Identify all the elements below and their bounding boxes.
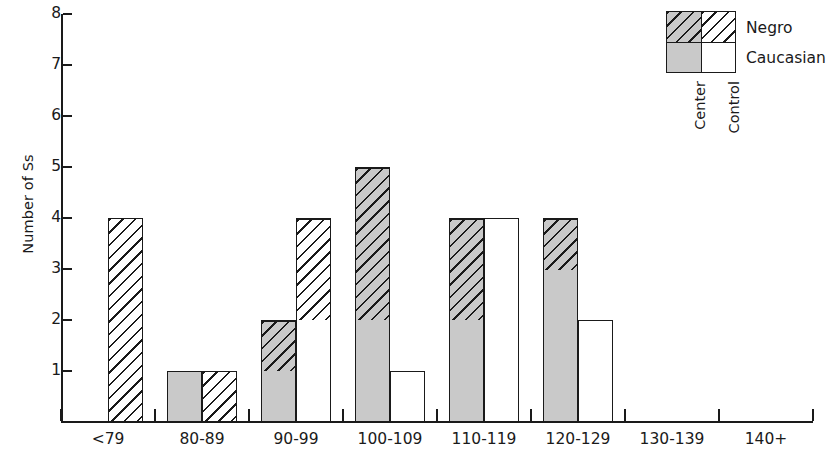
y-tick-label-2: 2 — [35, 310, 61, 328]
bar-segment-control-caucasian-100-109 — [391, 372, 424, 421]
bar-center-100-109 — [355, 167, 390, 422]
y-tick-label-4: 4 — [35, 208, 61, 226]
bar-segment-center-caucasian-80-89 — [168, 372, 201, 421]
x-tick-label-4: 110-119 — [452, 430, 517, 448]
y-tick-label-8: 8 — [35, 4, 61, 22]
y-tick-label-1: 1 — [35, 361, 61, 379]
x-tick-label-3: 100-109 — [358, 430, 423, 448]
bar-segment-center-negro-100-109 — [356, 168, 389, 320]
x-tick-label-0: <79 — [92, 430, 125, 448]
bar-control-110-119 — [484, 218, 519, 422]
legend-label-control: Control — [726, 81, 742, 133]
bar-segment-control-negro-90-99 — [297, 219, 330, 320]
bar-control-80-89 — [202, 371, 237, 422]
bar-segment-control-negro-<79 — [109, 219, 142, 421]
x-tick-label-1: 80-89 — [179, 430, 224, 448]
bar-center-110-119 — [449, 218, 484, 422]
bar-segment-center-negro-90-99 — [262, 321, 295, 371]
y-tick-label-3: 3 — [35, 259, 61, 277]
plot-area — [61, 14, 813, 422]
bar-control-100-109 — [390, 371, 425, 422]
legend-label-negro: Negro — [746, 19, 793, 37]
bar-segment-control-caucasian-120-129 — [579, 321, 612, 421]
bar-segment-center-caucasian-90-99 — [262, 371, 295, 421]
y-tick-label-6: 6 — [35, 106, 61, 124]
bar-control-120-129 — [578, 320, 613, 422]
bar-segment-center-caucasian-110-119 — [450, 320, 483, 421]
legend-swatch-control-caucasian — [701, 42, 735, 72]
legend-label-caucasian: Caucasian — [746, 49, 826, 67]
bar-segment-control-negro-80-89 — [203, 372, 236, 421]
legend-swatch-center-caucasian — [667, 42, 701, 72]
bar-segment-control-caucasian-90-99 — [297, 320, 330, 421]
x-tick-label-2: 90-99 — [273, 430, 318, 448]
x-tick-label-6: 130-139 — [640, 430, 705, 448]
histogram-chart: Number of Ss 12345678 <7980-8990-99100-1… — [0, 0, 829, 476]
bar-segment-center-negro-120-129 — [544, 219, 577, 270]
bar-segment-center-caucasian-120-129 — [544, 270, 577, 422]
y-axis-label: Number of Ss — [20, 124, 36, 284]
y-tick-label-7: 7 — [35, 55, 61, 73]
bar-segment-center-negro-110-119 — [450, 219, 483, 320]
bar-segment-center-caucasian-100-109 — [356, 320, 389, 421]
bar-center-90-99 — [261, 320, 296, 422]
x-tick-label-7: 140+ — [745, 430, 788, 448]
legend-swatch-matrix — [666, 11, 736, 73]
bar-control-<79 — [108, 218, 143, 422]
legend-swatch-control-negro — [701, 12, 735, 42]
x-tick-label-5: 120-129 — [546, 430, 611, 448]
y-tick-label-5: 5 — [35, 157, 61, 175]
bar-center-80-89 — [167, 371, 202, 422]
legend-label-center: Center — [692, 81, 708, 130]
bar-control-90-99 — [296, 218, 331, 422]
legend-swatch-center-negro — [667, 12, 701, 42]
bar-segment-control-caucasian-110-119 — [485, 219, 518, 421]
bar-center-120-129 — [543, 218, 578, 422]
